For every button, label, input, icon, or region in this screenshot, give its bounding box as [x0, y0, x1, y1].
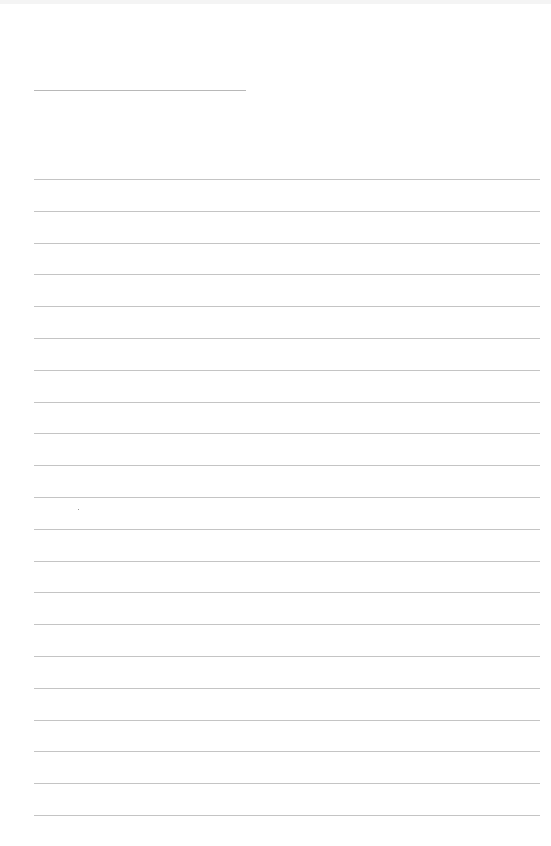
- ruled-line: [34, 561, 540, 562]
- ruled-line: [34, 402, 540, 403]
- page-top-edge: [0, 0, 551, 4]
- ruled-line: [34, 783, 540, 784]
- ruled-line: [34, 497, 540, 498]
- ruled-line: [34, 306, 540, 307]
- ruled-line: [34, 179, 540, 180]
- paper-speck: [78, 509, 79, 510]
- ruled-line: [34, 815, 540, 816]
- ruled-line: [34, 592, 540, 593]
- ruled-line: [34, 465, 540, 466]
- ruled-line: [34, 656, 540, 657]
- ruled-line: [34, 720, 540, 721]
- ruled-line: [34, 243, 540, 244]
- ruled-line: [34, 688, 540, 689]
- ruled-line: [34, 529, 540, 530]
- ruled-line: [34, 624, 540, 625]
- ruled-line: [34, 211, 540, 212]
- header-blank-line: [34, 90, 246, 91]
- ruled-line: [34, 338, 540, 339]
- ruled-line: [34, 751, 540, 752]
- ruled-line: [34, 433, 540, 434]
- ruled-line: [34, 370, 540, 371]
- ruled-line: [34, 274, 540, 275]
